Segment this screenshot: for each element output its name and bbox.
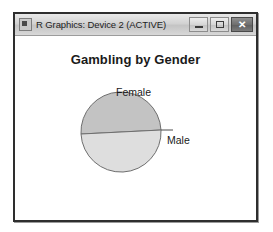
pie-slice-female [81, 92, 161, 134]
window-title: R Graphics: Device 2 (ACTIVE) [36, 19, 189, 30]
maximize-button[interactable] [210, 17, 229, 32]
pie-chart-svg [75, 88, 185, 178]
pie-slice-male [81, 130, 161, 172]
plot-canvas: Gambling by Gender Female Male [15, 36, 256, 219]
pie-chart: Female Male [15, 36, 256, 219]
screenshot-root: R Graphics: Device 2 (ACTIVE) ✕ Gambling… [0, 0, 273, 232]
r-graphics-icon [19, 18, 32, 31]
window-titlebar[interactable]: R Graphics: Device 2 (ACTIVE) ✕ [15, 14, 256, 36]
maximize-icon [216, 21, 224, 28]
window-controls: ✕ [189, 17, 253, 32]
minimize-icon [195, 26, 203, 28]
r-graphics-window: R Graphics: Device 2 (ACTIVE) ✕ Gambling… [13, 12, 258, 222]
close-icon: ✕ [232, 18, 252, 31]
pie-label-female: Female [116, 86, 151, 98]
minimize-button[interactable] [189, 17, 208, 32]
close-button[interactable]: ✕ [231, 17, 253, 32]
pie-label-male: Male [167, 134, 190, 146]
